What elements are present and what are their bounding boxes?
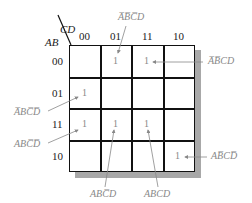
term-label: A̅BC̅D̅ bbox=[14, 106, 40, 117]
term-label: A̅B̅CD bbox=[208, 55, 234, 66]
term-label: ABCD bbox=[144, 188, 170, 199]
annotation-arrows bbox=[0, 0, 252, 203]
term-label: ABC̅D̅ bbox=[14, 138, 40, 149]
term-label: ABC̅D bbox=[90, 188, 116, 199]
term-label: A̅B̅C̅D bbox=[118, 11, 144, 22]
term-label: AB̅CD̅ bbox=[211, 150, 237, 161]
